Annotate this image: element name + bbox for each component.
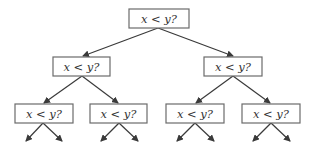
node-root: x < y?: [129, 9, 189, 28]
node-label: x < y?: [177, 107, 214, 121]
edge-leaf-arrow: [43, 123, 62, 141]
edge-leaf-arrow: [101, 123, 119, 141]
node-label: x < y?: [253, 107, 290, 121]
edge-leaf-arrow: [253, 123, 271, 141]
node-label: x < y?: [141, 12, 178, 26]
node-left: x < y?: [53, 57, 110, 76]
decision-tree-diagram: x < y? x < y? x < y? x < y? x < y? x < y…: [0, 0, 317, 151]
node-left-right: x < y?: [90, 104, 147, 123]
node-right-left: x < y?: [166, 104, 224, 123]
node-right: x < y?: [204, 57, 262, 76]
node-left-left: x < y?: [15, 104, 73, 123]
edge-leaf-arrow: [177, 123, 195, 141]
edge-root-to-right: [158, 28, 233, 56]
edge-leaf-arrow: [195, 123, 214, 141]
edge-root-to-left: [83, 28, 158, 56]
edge-leaf-arrow: [119, 123, 138, 141]
edge-leaf-arrow: [271, 123, 290, 141]
node-label: x < y?: [215, 60, 252, 74]
node-right-right: x < y?: [242, 104, 300, 123]
edge-left-to-left-left: [44, 76, 82, 103]
edge-leaf-arrow: [26, 123, 43, 141]
edge-left-to-left-right: [82, 76, 118, 103]
edge-right-to-right-left: [196, 76, 233, 103]
edge-right-to-right-right: [233, 76, 270, 103]
node-label: x < y?: [63, 60, 100, 74]
node-label: x < y?: [26, 107, 63, 121]
node-label: x < y?: [100, 107, 137, 121]
